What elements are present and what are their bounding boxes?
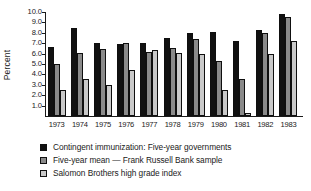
chart-legend: Contingent immunization: Five-year gover… bbox=[40, 141, 290, 180]
bar bbox=[199, 54, 205, 116]
bar bbox=[268, 54, 274, 116]
legend-item-label: Salomon Brothers high grade index bbox=[53, 169, 181, 178]
legend-item: Salomon Brothers high grade index bbox=[40, 167, 290, 180]
bar bbox=[129, 70, 135, 116]
y-axis-tick-label: 9.0 bbox=[32, 19, 42, 27]
bar bbox=[83, 79, 89, 116]
bar-group bbox=[207, 12, 230, 116]
legend-item: Five-year mean — Frank Russell Bank samp… bbox=[40, 154, 290, 167]
legend-item-label: Five-year mean — Frank Russell Bank samp… bbox=[53, 156, 222, 165]
bar bbox=[176, 53, 182, 116]
x-axis-tick-label: 1977 bbox=[138, 119, 161, 131]
bar-group bbox=[115, 12, 138, 116]
y-axis-tick-label: 8.0 bbox=[32, 29, 42, 37]
x-axis-line bbox=[45, 116, 303, 117]
legend-swatch-lightgray-icon bbox=[40, 170, 47, 177]
plot-area: 10.09.08.07.06.05.04.03.02.01.0 bbox=[45, 12, 300, 116]
bar bbox=[222, 90, 228, 116]
y-axis-tick-label: 5.0 bbox=[32, 60, 42, 68]
bar-group bbox=[161, 12, 184, 116]
bar bbox=[245, 113, 251, 116]
y-axis-title-text: Percent bbox=[2, 26, 12, 104]
y-axis-tick-label: 1.0 bbox=[32, 102, 42, 110]
x-axis-tick-label: 1981 bbox=[231, 119, 254, 131]
bar-groups bbox=[45, 12, 300, 116]
x-axis-tick-label: 1973 bbox=[45, 119, 68, 131]
x-axis-tick-labels: 1973197419751976197719781979198019811982… bbox=[45, 119, 300, 131]
y-axis-tick-label: 2.0 bbox=[32, 91, 42, 99]
y-axis-tick-label: 6.0 bbox=[32, 50, 42, 58]
bar bbox=[106, 85, 112, 116]
legend-item-label: Contingent immunization: Five-year gover… bbox=[53, 143, 231, 152]
y-axis-title: Percent bbox=[2, 0, 14, 26]
bar-group bbox=[184, 12, 207, 116]
bar bbox=[60, 90, 66, 116]
bar-group bbox=[45, 12, 68, 116]
x-axis-tick-label: 1983 bbox=[277, 119, 300, 131]
bar-group bbox=[277, 12, 300, 116]
bar bbox=[152, 50, 158, 116]
y-axis-tick-label: 10.0 bbox=[28, 8, 42, 16]
x-axis-tick-label: 1982 bbox=[254, 119, 277, 131]
legend-swatch-black-icon bbox=[40, 144, 47, 151]
x-axis-tick-label: 1980 bbox=[207, 119, 230, 131]
x-axis-tick-label: 1975 bbox=[91, 119, 114, 131]
legend-item: Contingent immunization: Five-year gover… bbox=[40, 141, 290, 154]
bar-chart-figure: Percent 10.09.08.07.06.05.04.03.02.01.0 … bbox=[0, 0, 311, 191]
x-axis-tick-label: 1974 bbox=[68, 119, 91, 131]
bar-group bbox=[254, 12, 277, 116]
y-axis-tick-label: 3.0 bbox=[32, 81, 42, 89]
bar bbox=[239, 79, 245, 116]
x-axis-tick-label: 1978 bbox=[161, 119, 184, 131]
bar-group bbox=[231, 12, 254, 116]
x-axis-tick-label: 1976 bbox=[115, 119, 138, 131]
x-axis-tick-label: 1979 bbox=[184, 119, 207, 131]
bar-group bbox=[68, 12, 91, 116]
bar-group bbox=[138, 12, 161, 116]
legend-swatch-darkgray-icon bbox=[40, 157, 47, 164]
y-axis-tick-label: 4.0 bbox=[32, 71, 42, 79]
bar-group bbox=[91, 12, 114, 116]
bar bbox=[291, 41, 297, 116]
y-axis-tick-label: 7.0 bbox=[32, 39, 42, 47]
